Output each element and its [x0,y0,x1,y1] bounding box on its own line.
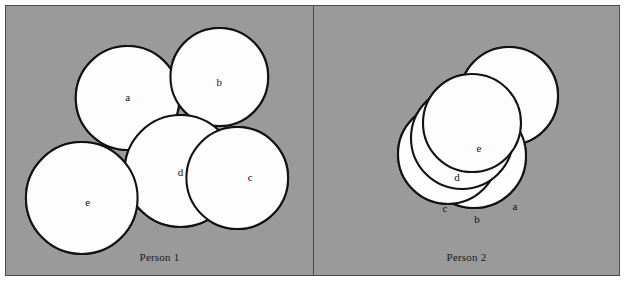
circle-label-person-1-c: c [248,171,253,183]
circle-label-person-2-d: d [454,171,460,183]
panel-person-1: abdce Person 1 [6,6,314,275]
circle-outline-person-1-e [26,142,138,254]
venn-svg-person-2: abcde [314,6,619,275]
circle-label-person-1-a: a [125,91,130,103]
venn-svg-person-1: abdce [6,6,313,275]
circle-outline-person-2-e [423,74,521,172]
panel-container: abdce Person 1 abcde Person 2 [6,6,619,275]
circle-label-person-2-e: e [477,142,482,154]
figure-root: abdce Person 1 abcde Person 2 [0,0,625,282]
circle-label-person-1-b: b [217,76,223,88]
panel-caption-person-2: Person 2 [314,252,619,263]
panel-caption-person-1: Person 1 [6,252,313,263]
circle-label-person-1-e: e [85,196,90,208]
circle-label-person-2-c: c [443,202,448,214]
venn-diagram-person-1: abdce [6,6,313,275]
circle-label-person-2-b: b [474,213,480,225]
venn-diagram-person-2: abcde [314,6,619,275]
circle-label-person-1-d: d [178,166,184,178]
circle-label-person-2-a: a [513,200,518,212]
panel-person-2: abcde Person 2 [314,6,619,275]
circle-outline-person-1-c [186,127,288,229]
